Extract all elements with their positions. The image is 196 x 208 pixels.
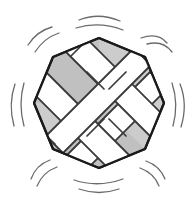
illustration-canvas: Spinning woven octagon A light-gray octa… bbox=[0, 0, 196, 208]
spinning-woven-octagon-illustration: Spinning woven octagon A light-gray octa… bbox=[0, 0, 196, 208]
